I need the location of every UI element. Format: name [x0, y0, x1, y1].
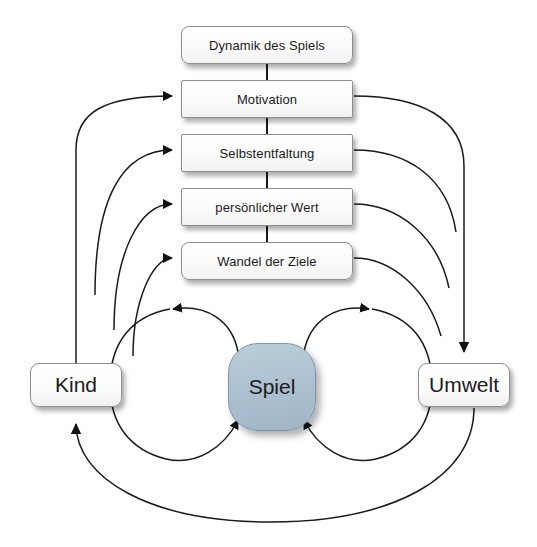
- node-kind[interactable]: Kind: [30, 363, 122, 407]
- loop-kind-spiel: [110, 308, 238, 460]
- arrow-wandel-to-umwelt: [354, 258, 441, 336]
- box-label: persönlicher Wert: [215, 200, 318, 215]
- arrow-kind-to-wandel: [133, 258, 172, 356]
- box-persoenlicher-wert[interactable]: persönlicher Wert: [181, 188, 353, 226]
- box-label: Selbstentfaltung: [220, 146, 315, 161]
- box-label: Motivation: [237, 92, 297, 107]
- node-label: Spiel: [249, 375, 296, 399]
- arrow-spiel-to-umwelt-top: [304, 308, 369, 352]
- box-selbstentfaltung[interactable]: Selbstentfaltung: [181, 134, 353, 172]
- box-label: Dynamik des Spiels: [209, 38, 325, 53]
- arrow-kind-to-motivation: [76, 96, 172, 150]
- box-dynamik-des-spiels[interactable]: Dynamik des Spiels: [181, 26, 353, 64]
- arrow-kind-to-selbstentfaltung: [95, 150, 172, 295]
- boxes-to-umwelt-curves: [354, 96, 464, 352]
- arrow-kind-to-spiel-bottom: [166, 420, 238, 461]
- arrow-spiel-to-kind-top: [173, 308, 238, 352]
- loop-spiel-umwelt: [304, 308, 432, 460]
- node-spiel[interactable]: Spiel: [228, 343, 316, 431]
- box-label: Wandel der Ziele: [217, 254, 316, 269]
- box-motivation[interactable]: Motivation: [181, 80, 353, 118]
- arrow-umwelt-to-spiel-bottom: [304, 420, 376, 461]
- arrow-motivation-to-umwelt: [354, 96, 464, 166]
- kind-to-boxes-curves: [76, 96, 172, 356]
- diagram-canvas: Dynamik des Spiels Motivation Selbstentf…: [0, 0, 537, 547]
- node-label: Kind: [55, 373, 97, 397]
- node-umwelt[interactable]: Umwelt: [418, 363, 510, 407]
- node-label: Umwelt: [429, 373, 499, 397]
- box-wandel-der-ziele[interactable]: Wandel der Ziele: [181, 242, 353, 280]
